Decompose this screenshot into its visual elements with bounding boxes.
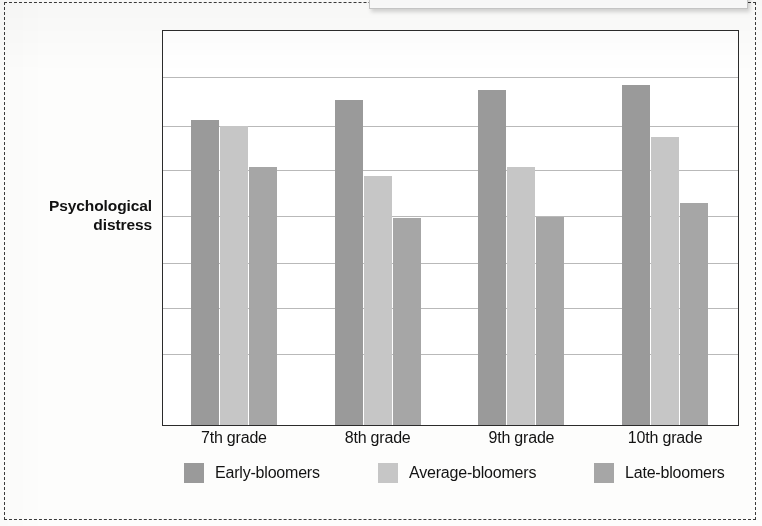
bar-late-bloomers-9th-grade xyxy=(536,217,564,425)
legend-label-0: Early-bloomers xyxy=(215,464,320,482)
bar-late-bloomers-7th-grade xyxy=(249,167,277,425)
legend-label-2: Late-bloomers xyxy=(625,464,725,482)
legend-item-late-bloomers: Late-bloomers xyxy=(594,463,725,483)
bar-group-9th-grade xyxy=(478,31,566,425)
bar-average-bloomers-7th-grade xyxy=(220,126,248,425)
x-axis-tick-labels: 7th grade8th grade9th grade10th grade xyxy=(162,429,739,455)
legend-swatch-icon-0 xyxy=(184,463,204,483)
bar-early-bloomers-9th-grade xyxy=(478,90,506,425)
bar-average-bloomers-10th-grade xyxy=(651,137,679,425)
bar-early-bloomers-7th-grade xyxy=(191,120,219,425)
bar-group-7th-grade xyxy=(191,31,279,425)
legend-label-1: Average-bloomers xyxy=(409,464,536,482)
bar-group-8th-grade xyxy=(335,31,423,425)
legend-swatch-icon-2 xyxy=(594,463,614,483)
legend-swatch-icon-1 xyxy=(378,463,398,483)
top-callout-fragment xyxy=(369,0,748,9)
bar-early-bloomers-10th-grade xyxy=(622,85,650,425)
bar-average-bloomers-8th-grade xyxy=(364,176,392,425)
bar-late-bloomers-8th-grade xyxy=(393,218,421,425)
x-tick-label-7th-grade: 7th grade xyxy=(162,429,306,447)
x-tick-label-8th-grade: 8th grade xyxy=(306,429,450,447)
legend-item-average-bloomers: Average-bloomers xyxy=(378,463,536,483)
bar-late-bloomers-10th-grade xyxy=(680,203,708,425)
legend-item-early-bloomers: Early-bloomers xyxy=(184,463,320,483)
x-tick-label-10th-grade: 10th grade xyxy=(593,429,737,447)
y-axis-title: Psychological distress xyxy=(16,196,152,234)
chart-legend: Early-bloomersAverage-bloomersLate-bloom… xyxy=(162,463,739,493)
bar-early-bloomers-8th-grade xyxy=(335,100,363,425)
plot-area xyxy=(162,30,739,426)
bar-average-bloomers-9th-grade xyxy=(507,167,535,425)
x-tick-label-9th-grade: 9th grade xyxy=(450,429,594,447)
bar-group-10th-grade xyxy=(622,31,710,425)
